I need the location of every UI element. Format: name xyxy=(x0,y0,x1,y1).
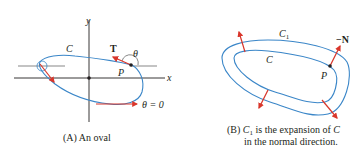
tangent-label-t: T xyxy=(110,43,117,54)
x-axis-label: x xyxy=(166,72,172,83)
panel-b-expansion: P −N C1 C (B) C1 is the expansion of C i… xyxy=(222,28,350,147)
panel-b-caption-line2: in the normal direction. xyxy=(244,136,338,147)
point-p-label-b: P xyxy=(320,70,327,81)
normal-arrow-bottom-right xyxy=(322,100,337,118)
inner-curve-label: C xyxy=(266,54,273,65)
curve-label-c: C xyxy=(66,43,73,54)
theta-label: θ xyxy=(133,48,138,59)
theta-zero-label: θ = 0 xyxy=(142,99,164,110)
normal-arrow-bottom-left xyxy=(259,90,268,108)
normal-arrow-neg-n xyxy=(330,46,340,66)
neg-n-label: −N xyxy=(336,34,350,45)
outer-curve-c1 xyxy=(222,40,349,115)
panel-a-oval: y x θ T P C θ = 0 (A) An oval xyxy=(14,15,172,144)
origin-dot xyxy=(87,76,91,80)
oval-curve-c xyxy=(39,55,143,104)
y-axis-label: y xyxy=(85,15,91,26)
point-p-dot xyxy=(129,63,133,67)
panel-a-caption: (A) An oval xyxy=(63,132,111,144)
point-p-label: P xyxy=(117,67,124,78)
outer-curve-label: C1 xyxy=(279,28,290,41)
point-p-dot-b xyxy=(328,64,332,68)
figure: y x θ T P C θ = 0 (A) An oval xyxy=(0,0,354,152)
